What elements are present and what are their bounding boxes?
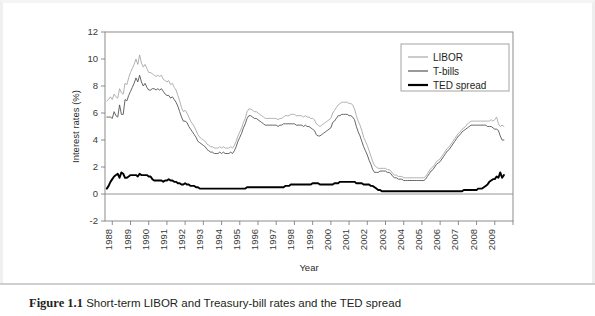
x-tick-label: 1990 [140,229,151,250]
caption-figure-number: Figure 1.1 [29,296,83,310]
legend-label-t-bills: T-bills [433,66,459,77]
y-tick-label: 6 [93,107,98,118]
x-tick-label: 2007 [449,229,460,250]
x-tick-label: 2001 [340,229,351,250]
caption-figure-text: Short-term LIBOR and Treasury-bill rates… [86,297,401,309]
x-tick-label: 1991 [158,229,169,250]
chart-canvas: -2024681012Interest rates (%)19881989199… [3,3,595,286]
y-tick-label: -2 [90,215,98,226]
x-axis-title: Year [299,262,318,273]
x-tick-label: 2008 [468,229,479,250]
x-tick-label: 2004 [395,229,406,250]
x-tick-label: 1993 [194,229,205,250]
y-axis-title: Interest rates (%) [70,90,81,163]
x-tick-label: 1995 [231,229,242,250]
y-tick-label: 0 [93,188,98,199]
x-tick-label: 1999 [304,229,315,250]
x-tick-label: 2000 [322,229,333,250]
x-tick-label: 2005 [413,229,424,250]
x-tick-label: 2003 [377,229,388,250]
y-tick-label: 4 [93,134,98,145]
legend-layer: LIBORT-billsTED spread [401,44,509,91]
x-tick-label: 1997 [267,229,278,250]
x-tick-label: 1994 [213,229,224,250]
x-tick-label: 1998 [285,229,296,250]
legend-label-ted-spread: TED spread [433,80,486,91]
y-tick-label: 10 [87,53,98,64]
x-tick-label: 2002 [358,229,369,250]
figure-caption: Figure 1.1 Short-term LIBOR and Treasury… [0,283,595,316]
y-tick-label: 2 [93,161,98,172]
legend-label-libor: LIBOR [433,52,463,63]
x-tick-label: 2006 [431,229,442,250]
x-tick-label: 2009 [486,229,497,250]
figure-panel: -2024681012Interest rates (%)19881989199… [0,0,595,283]
y-tick-label: 8 [93,80,98,91]
y-tick-label: 12 [87,26,98,37]
x-tick-label: 1996 [249,229,260,250]
series-line-ted-spread [107,172,504,191]
x-tick-label: 1988 [103,229,114,250]
x-tick-label: 1992 [176,229,187,250]
x-tick-label: 1989 [122,229,133,250]
